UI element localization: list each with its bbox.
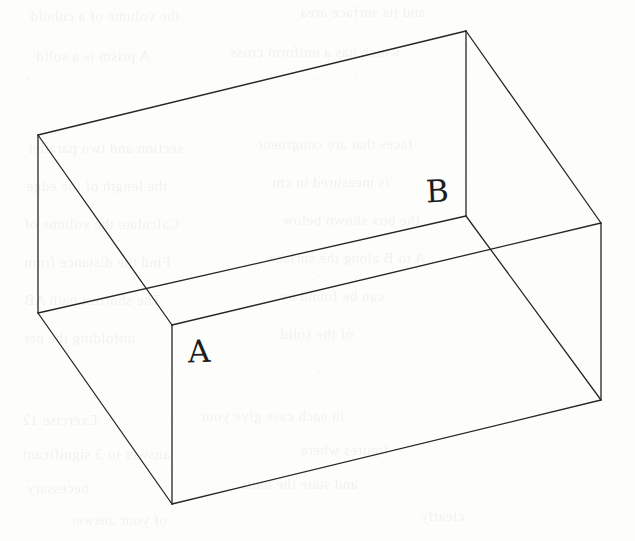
box-edge-bottom-left-diagonal bbox=[38, 313, 172, 504]
vertex-label-b: B bbox=[425, 175, 449, 207]
box-edge-bottom-front-edge bbox=[172, 400, 601, 504]
open-box-wireframe-drawing bbox=[0, 0, 635, 541]
box-edge-front-top-edge bbox=[172, 223, 601, 325]
box-edge-top-back-edge bbox=[38, 31, 466, 135]
box-edge-inner-rim-edge bbox=[38, 216, 466, 313]
scanned-figure-page: the volume of a cuboidand its surface ar… bbox=[0, 0, 635, 541]
vertex-label-a: A bbox=[187, 336, 210, 368]
box-edge-top-right-edge bbox=[466, 31, 601, 223]
box-edges bbox=[38, 31, 601, 504]
box-edge-inner-back-diagonal bbox=[466, 216, 601, 400]
box-edge-top-left-diagonal bbox=[38, 135, 172, 325]
